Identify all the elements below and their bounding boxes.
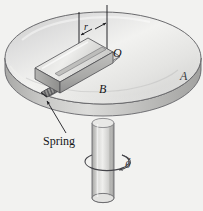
label-disk-a: A — [180, 70, 187, 82]
support-shaft — [92, 118, 114, 202]
label-radius-r: r — [84, 22, 88, 32]
label-angular-velocity: θ˙ — [125, 159, 130, 170]
label-point-o: O — [113, 47, 122, 59]
theta-dot-accent: ˙ — [128, 156, 132, 167]
mechanics-diagram — [0, 0, 203, 211]
shaft-top-cap — [92, 118, 114, 127]
label-slider-b: B — [99, 83, 106, 95]
shaft-bottom-cap — [92, 193, 114, 202]
label-spring: Spring — [43, 135, 75, 147]
figure-container: O B A r Spring θ˙ — [0, 0, 203, 211]
